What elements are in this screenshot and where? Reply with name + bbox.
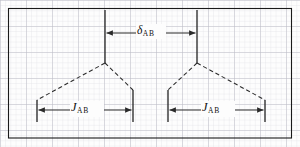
delta-symbol: δ xyxy=(137,24,142,36)
j-ab-left-label: JAB xyxy=(71,101,89,115)
delta-subscript: AB xyxy=(143,29,155,38)
j-left-subscript: AB xyxy=(77,106,89,115)
splitting-diagram-svg xyxy=(0,0,300,147)
graph-paper-background xyxy=(0,0,300,147)
j-left-symbol: J xyxy=(71,100,77,114)
j-right-subscript: AB xyxy=(208,106,220,115)
delta-ab-label: δAB xyxy=(137,25,155,38)
j-ab-right-label: JAB xyxy=(202,101,220,115)
figure-canvas: δAB JAB JAB xyxy=(0,0,300,147)
j-right-symbol: J xyxy=(202,100,208,114)
